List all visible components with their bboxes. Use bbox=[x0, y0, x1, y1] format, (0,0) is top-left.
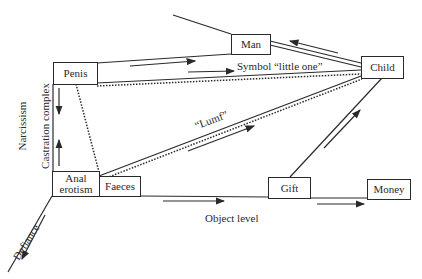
lumf-dotted bbox=[101, 79, 362, 180]
lumf-line bbox=[99, 76, 361, 176]
node-faeces-label: Faeces bbox=[105, 181, 135, 192]
arrow-gift-child bbox=[324, 110, 360, 148]
node-faeces: Faeces bbox=[99, 176, 141, 197]
node-anal-erotism-label: Anal erotism bbox=[55, 173, 97, 195]
node-man-label: Man bbox=[241, 39, 261, 50]
node-anal-erotism: Anal erotism bbox=[52, 171, 100, 197]
penis-anal-dotted bbox=[76, 84, 99, 172]
node-penis: Penis bbox=[53, 62, 98, 85]
child-gift-line bbox=[290, 78, 382, 177]
label-object-level: Object level bbox=[205, 212, 258, 224]
penis-child-dotted bbox=[97, 74, 361, 86]
node-gift: Gift bbox=[268, 177, 311, 199]
psychoanalytic-diagram: Penis Man Child Anal erotism Faeces Gift… bbox=[0, 0, 422, 279]
label-symbol-little-one: Symbol “little one” bbox=[237, 60, 323, 72]
label-castration-complex: Castration complex bbox=[39, 80, 51, 172]
faeces-gift-line bbox=[140, 196, 268, 197]
node-child-label: Child bbox=[370, 62, 394, 73]
node-money: Money bbox=[367, 179, 411, 200]
node-child: Child bbox=[361, 56, 404, 79]
label-narcissism: Narcissism bbox=[16, 98, 28, 154]
man-upper-line bbox=[173, 15, 231, 34]
node-gift-label: Gift bbox=[281, 183, 299, 194]
node-money-label: Money bbox=[373, 184, 404, 195]
diagram-lines bbox=[0, 0, 422, 279]
node-penis-label: Penis bbox=[64, 68, 88, 79]
arrow-penis-man bbox=[130, 61, 195, 66]
node-man: Man bbox=[231, 34, 271, 55]
arrow-symbol bbox=[188, 71, 234, 72]
penis-man-line bbox=[97, 54, 231, 63]
